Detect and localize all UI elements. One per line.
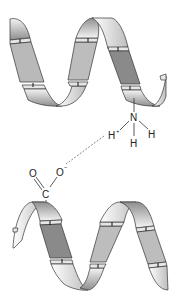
ribbon-segment	[10, 19, 30, 40]
ribbon-segment	[137, 230, 166, 264]
negative-charge: −	[64, 164, 68, 170]
ribbon-segment	[76, 18, 99, 38]
n-h-bond	[139, 121, 148, 129]
ribbon-segment	[121, 86, 141, 90]
ribbon-segment	[68, 42, 97, 80]
c-o-double-bond	[34, 179, 42, 190]
ribbon-segment	[24, 89, 62, 106]
hydrogen-atom-bottom: H	[130, 138, 137, 149]
c-o-double-bond	[36, 177, 44, 188]
ribbon-segment	[149, 266, 168, 290]
ribbon-segment	[160, 74, 166, 80]
ribbon-segment	[90, 226, 122, 262]
nitrogen-atom: N	[130, 112, 137, 123]
ribbon-segment	[22, 85, 46, 89]
ribbon-segment	[80, 268, 104, 290]
top-helix	[10, 18, 166, 106]
positive-charge: +	[116, 128, 120, 134]
ribbon-segment	[13, 228, 18, 232]
hydrogen-plus-atom: H	[108, 130, 115, 141]
ribbon-segment	[75, 38, 98, 42]
c-o-single-bond	[50, 177, 57, 187]
n-h-bond	[120, 121, 129, 130]
ribbon-segment	[40, 224, 72, 258]
hydrogen-atom-right: H	[148, 129, 155, 140]
ionic-interaction-line	[66, 136, 104, 164]
ribbon-segment	[10, 42, 44, 82]
ribbon-segment	[56, 86, 86, 106]
salt-bridge-diagram: N H + H H O O − C	[0, 0, 180, 307]
ribbon-segment	[109, 51, 140, 84]
bottom-helix	[13, 202, 168, 290]
oxygen-minus-atom: O	[56, 167, 64, 178]
ribbon-segment	[32, 202, 62, 221]
carbon-atom: C	[42, 189, 49, 200]
ribbon-segment	[122, 90, 160, 106]
ribbon-segment	[152, 76, 166, 106]
